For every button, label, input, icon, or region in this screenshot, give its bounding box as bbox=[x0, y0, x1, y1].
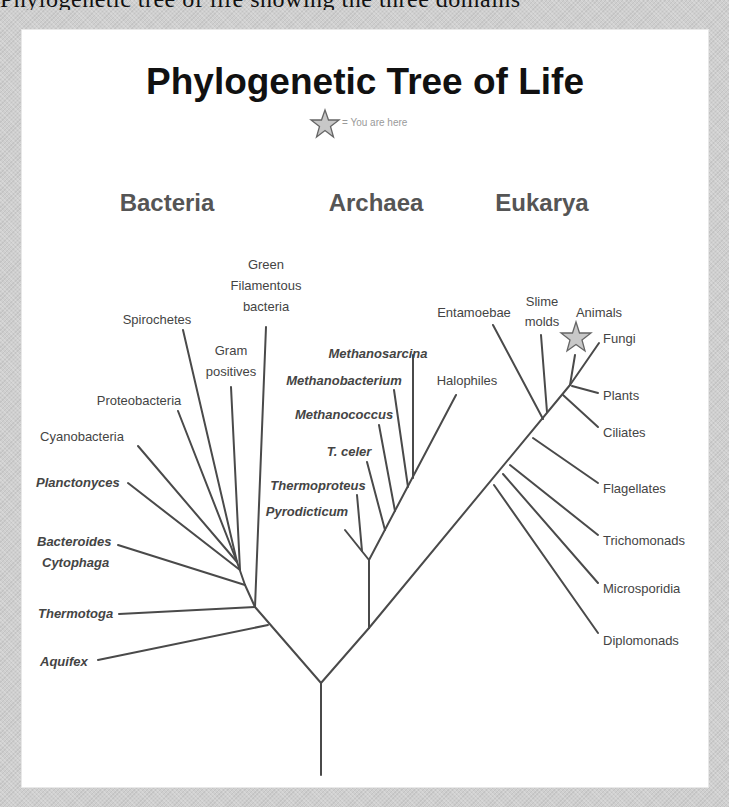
legend-text: = You are here bbox=[342, 117, 408, 128]
label-slime-molds-1: Slime bbox=[526, 294, 559, 309]
label-aquifex: Aquifex bbox=[39, 654, 88, 669]
label-methanococcus: Methanococcus bbox=[295, 407, 393, 422]
label-gram-positives-2: positives bbox=[206, 364, 257, 379]
diagram-title: Phylogenetic Tree of Life bbox=[146, 61, 584, 102]
branch-thermoproteus bbox=[357, 495, 362, 551]
bacteria-stem bbox=[255, 607, 321, 683]
you-are-here-star-icon bbox=[561, 322, 591, 351]
label-microsporidia: Microsporidia bbox=[603, 581, 681, 596]
label-flagellates: Flagellates bbox=[603, 481, 666, 496]
label-proteobacteria: Proteobacteria bbox=[97, 393, 182, 408]
branch-trichomonads bbox=[510, 465, 598, 535]
label-cytophaga: Cytophaga bbox=[42, 555, 109, 570]
label-methanosarcina: Methanosarcina bbox=[329, 346, 428, 361]
label-green-filamentous-2: Filamentous bbox=[231, 278, 302, 293]
branch-thermotoga bbox=[119, 607, 255, 614]
label-entamoebae: Entamoebae bbox=[437, 305, 511, 320]
label-green-filamentous-3: bacteria bbox=[243, 299, 290, 314]
domain-eukarya: Eukarya bbox=[495, 189, 589, 216]
branch-diplomonads bbox=[494, 485, 598, 633]
branch-t-celer bbox=[367, 462, 385, 530]
branch-pyrodicticum bbox=[345, 530, 369, 560]
legend: = You are here bbox=[311, 110, 408, 137]
label-plants: Plants bbox=[603, 388, 640, 403]
label-t-celer: T. celer bbox=[327, 444, 373, 459]
label-diplomonads: Diplomonads bbox=[603, 633, 679, 648]
branch-bacteroides bbox=[118, 545, 245, 585]
label-fungi: Fungi bbox=[603, 331, 636, 346]
branch-aquifex bbox=[98, 625, 268, 660]
label-gram-positives-1: Gram bbox=[215, 343, 248, 358]
branch-green-filamentous bbox=[255, 327, 266, 607]
label-slime-molds-2: molds bbox=[525, 314, 560, 329]
label-green-filamentous-1: Green bbox=[248, 257, 284, 272]
label-ciliates: Ciliates bbox=[603, 425, 646, 440]
label-spirochetes: Spirochetes bbox=[123, 312, 192, 327]
label-methanobacterium: Methanobacterium bbox=[286, 373, 402, 388]
branch-ciliates bbox=[563, 395, 598, 427]
label-pyrodicticum: Pyrodicticum bbox=[266, 504, 349, 519]
branch-flagellates bbox=[533, 438, 598, 483]
label-thermoproteus: Thermoproteus bbox=[270, 478, 365, 493]
branch-plants bbox=[572, 386, 598, 393]
branch-entamoebae bbox=[493, 325, 543, 419]
branch-methanobacterium bbox=[394, 390, 408, 487]
label-trichomonads: Trichomonads bbox=[603, 533, 685, 548]
domain-archaea: Archaea bbox=[329, 189, 424, 216]
archaea-eukarya-stem bbox=[321, 628, 369, 683]
label-bacteroides: Bacteroides bbox=[37, 534, 111, 549]
branch-methanococcus bbox=[379, 425, 395, 511]
branch-cyanobacteria bbox=[138, 446, 237, 562]
label-halophiles: Halophiles bbox=[437, 373, 498, 388]
label-animals: Animals bbox=[576, 305, 623, 320]
domain-bacteria: Bacteria bbox=[120, 189, 215, 216]
star-icon bbox=[311, 110, 339, 137]
label-planctomyces: Planctonyces bbox=[36, 475, 120, 490]
label-cyanobacteria: Cyanobacteria bbox=[40, 429, 125, 444]
branch-slime-molds bbox=[541, 335, 547, 412]
phylogenetic-tree-diagram: Phylogenetic Tree of Life = You are here… bbox=[0, 0, 729, 807]
label-thermotoga: Thermotoga bbox=[38, 606, 113, 621]
